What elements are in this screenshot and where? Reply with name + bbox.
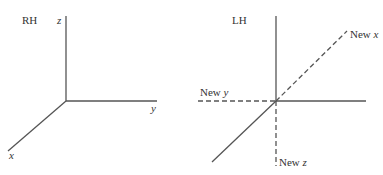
rh-x-label: x bbox=[8, 149, 14, 161]
lh-new-y-label: New y bbox=[200, 86, 229, 98]
coordinate-systems-diagram: RH z y x LH New x New y New z bbox=[0, 0, 383, 175]
lh-panel: LH New x New y New z bbox=[198, 14, 379, 168]
lh-new-x-label: New x bbox=[350, 28, 379, 40]
lh-new-x-axis bbox=[276, 31, 347, 101]
rh-y-label: y bbox=[150, 102, 156, 114]
rh-z-label: z bbox=[56, 14, 62, 26]
rh-panel: RH z y x bbox=[8, 14, 157, 161]
lh-new-z-label: New z bbox=[279, 156, 308, 168]
lh-title: LH bbox=[232, 14, 247, 26]
rh-title: RH bbox=[22, 14, 37, 26]
rh-x-axis bbox=[8, 101, 66, 151]
lh-diagonal-axis bbox=[212, 101, 276, 162]
